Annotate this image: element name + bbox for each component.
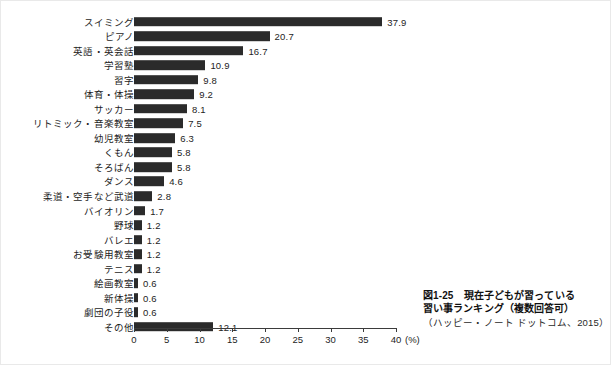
bar — [134, 148, 172, 158]
chart-row: 幼児教室6.3 — [1, 131, 611, 146]
chart-row: そろばん5.8 — [1, 160, 611, 175]
category-label: バレエ — [104, 234, 134, 245]
x-axis-tick-label: 10 — [194, 334, 205, 345]
x-axis-tick-label: 5 — [164, 334, 169, 345]
chart-row: 習字9.8 — [1, 73, 611, 88]
bar-value-label: 37.9 — [387, 16, 406, 27]
bar — [134, 191, 152, 201]
category-label: リトミック・音楽教室 — [33, 118, 134, 129]
bar — [134, 17, 382, 27]
x-axis-tick-label: 15 — [227, 334, 238, 345]
x-axis-tick — [396, 328, 397, 332]
bar — [134, 133, 175, 143]
bar-value-label: 20.7 — [275, 31, 294, 42]
figure-caption: 図1-25 現在子どもが習っている 習い事ランキング（複数回答可） （ハッピー・… — [423, 289, 608, 329]
caption-line-2: 習い事ランキング（複数回答可） — [423, 302, 608, 315]
chart-row: お受験用教室1.2 — [1, 247, 611, 262]
bar — [134, 75, 198, 85]
bar — [134, 264, 142, 274]
category-label: 劇団の子役 — [84, 307, 135, 318]
chart-row: サッカー8.1 — [1, 102, 611, 117]
category-label: 体育・体操 — [84, 89, 135, 100]
bar-value-label: 9.8 — [203, 74, 217, 85]
x-axis-unit-label: (%) — [405, 334, 420, 345]
bar — [134, 90, 194, 100]
x-axis-tick-label: 0 — [131, 334, 136, 345]
chart-row: 野球1.2 — [1, 218, 611, 233]
bar — [134, 322, 213, 332]
bar-value-label: 0.6 — [143, 292, 157, 303]
x-axis-tick — [363, 328, 364, 332]
chart-row: 柔道・空手など武道2.8 — [1, 189, 611, 204]
bar-value-label: 1.7 — [150, 205, 164, 216]
bar — [134, 307, 138, 317]
category-label: その他 — [104, 321, 134, 332]
x-axis-tick — [232, 328, 233, 332]
bar — [134, 206, 145, 216]
bar-value-label: 6.3 — [180, 132, 194, 143]
chart-row: 学習塾10.9 — [1, 58, 611, 73]
chart-row: 英語・英会話16.7 — [1, 44, 611, 59]
bar-value-label: 1.2 — [147, 234, 161, 245]
bar-value-label: 0.6 — [143, 307, 157, 318]
bar-value-label: 7.5 — [188, 118, 202, 129]
category-label: 野球 — [114, 220, 134, 231]
category-label: 柔道・空手など武道 — [43, 190, 134, 201]
x-axis-tick — [265, 328, 266, 332]
bar-value-label: 16.7 — [248, 45, 267, 56]
bar-value-label: 10.9 — [210, 60, 229, 71]
category-label: そろばん — [94, 161, 134, 172]
x-axis-tick — [298, 328, 299, 332]
x-axis-tick-label: 20 — [260, 334, 271, 345]
x-axis-tick — [167, 328, 168, 332]
bar-value-label: 2.8 — [157, 190, 171, 201]
x-axis-tick-label: 35 — [358, 334, 369, 345]
bar-value-label: 1.2 — [147, 220, 161, 231]
bar-value-label: 12.1 — [218, 321, 237, 332]
category-label: ピアノ — [105, 31, 134, 42]
chart-row: バレエ1.2 — [1, 232, 611, 247]
x-axis-tick — [134, 328, 135, 332]
bar-value-label: 5.8 — [177, 161, 191, 172]
category-label: 習字 — [114, 74, 134, 85]
category-label: バイオリン — [84, 205, 135, 216]
category-label: 幼児教室 — [94, 132, 134, 143]
bar-value-label: 1.2 — [147, 263, 161, 274]
bar — [134, 249, 142, 259]
category-label: 絵画教室 — [94, 278, 134, 289]
chart-row: ピアノ20.7 — [1, 29, 611, 44]
bar — [134, 235, 142, 245]
bar-value-label: 5.8 — [177, 147, 191, 158]
chart-row: スイミング37.9 — [1, 15, 611, 30]
bar-value-label: 4.6 — [169, 176, 183, 187]
bar — [134, 162, 172, 172]
category-label: スイミング — [84, 16, 135, 27]
bar-value-label: 1.2 — [147, 249, 161, 260]
bar — [134, 220, 142, 230]
bar — [134, 293, 138, 303]
category-label: 英語・英会話 — [73, 45, 134, 56]
category-label: ダンス — [104, 176, 134, 187]
x-axis-tick-label: 30 — [325, 334, 336, 345]
bar — [134, 119, 183, 129]
bar — [134, 31, 270, 41]
bar-value-label: 8.1 — [192, 103, 206, 114]
category-label: テニス — [104, 263, 134, 274]
x-axis-tick — [200, 328, 201, 332]
chart-row: バイオリン1.7 — [1, 203, 611, 218]
category-label: お受験用教室 — [73, 249, 134, 260]
chart-row: リトミック・音楽教室7.5 — [1, 116, 611, 131]
caption-line-1: 図1-25 現在子どもが習っている — [423, 289, 608, 302]
category-label: くもん — [104, 147, 134, 158]
figure-root: スイミング37.9ピアノ20.7英語・英会話16.7学習塾10.9習字9.8体育… — [0, 0, 611, 365]
chart-row: テニス1.2 — [1, 261, 611, 276]
bar — [134, 46, 243, 56]
bar-value-label: 0.6 — [143, 278, 157, 289]
bar — [134, 104, 187, 114]
x-axis-tick — [331, 328, 332, 332]
category-label: 学習塾 — [104, 60, 134, 71]
chart-row: ダンス4.6 — [1, 174, 611, 189]
chart-row: くもん5.8 — [1, 145, 611, 160]
bar-value-label: 9.2 — [199, 89, 213, 100]
bar — [134, 278, 138, 288]
